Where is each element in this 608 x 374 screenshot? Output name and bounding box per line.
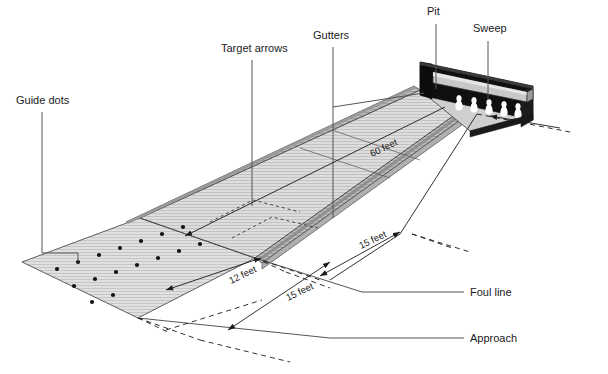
leader-foul-line [255, 258, 464, 292]
label-15-feet-lower: 15 feet [284, 280, 315, 303]
label-target-arrows: Target arrows [221, 42, 288, 54]
leader-approach [138, 318, 464, 338]
extension-lines-left [138, 318, 290, 362]
label-guide-dots: Guide dots [16, 94, 70, 106]
diagram-canvas: Guide dots Target arrows Gutters Pit Swe… [0, 0, 608, 374]
bowling-lane-diagram: Guide dots Target arrows Gutters Pit Swe… [0, 0, 608, 374]
leader-guide-dots [42, 112, 78, 262]
label-pit: Pit [427, 5, 440, 17]
label-foul-line: Foul line [470, 286, 512, 298]
label-approach: Approach [470, 332, 517, 344]
label-gutters: Gutters [313, 29, 350, 41]
label-sweep: Sweep [473, 22, 507, 34]
